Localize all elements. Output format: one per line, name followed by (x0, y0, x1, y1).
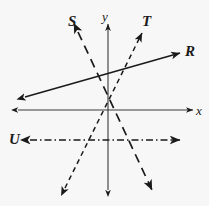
y-axis-label: y (102, 10, 108, 23)
line-s (78, 32, 152, 190)
line-r (25, 53, 180, 97)
line-label-r: R (185, 44, 195, 59)
line-label-t: T (142, 14, 151, 29)
line-label-u: U (9, 132, 20, 147)
line-label-s: S (68, 14, 76, 29)
figure-canvas (0, 0, 209, 206)
coordinate-plane-figure: S T R U x y (0, 0, 209, 206)
x-axis-label: x (196, 104, 202, 117)
